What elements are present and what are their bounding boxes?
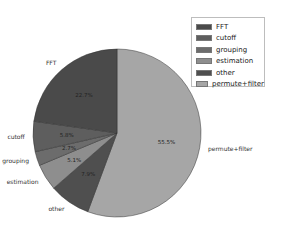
legend-swatch bbox=[196, 58, 212, 64]
legend-label: cutoff bbox=[216, 34, 236, 42]
pie-percent-label: 5.1% bbox=[67, 157, 81, 163]
legend-item-fft: FFT bbox=[196, 21, 264, 33]
legend-label: other bbox=[216, 69, 235, 77]
pie-slices bbox=[33, 49, 201, 217]
pie-percent-label: 7.9% bbox=[81, 171, 95, 177]
pie-percent-label: 2.7% bbox=[62, 145, 76, 151]
legend-swatch bbox=[196, 24, 212, 30]
legend-swatch bbox=[196, 35, 212, 41]
legend-swatch bbox=[196, 70, 212, 76]
legend-label: permute+filter bbox=[212, 80, 264, 88]
legend-item-estimation: estimation bbox=[196, 56, 264, 68]
pie-category-label: grouping bbox=[2, 157, 29, 165]
legend-label: estimation bbox=[216, 57, 253, 65]
legend-item-permute-filter: permute+filter bbox=[196, 79, 264, 91]
pie-percent-label: 55.5% bbox=[158, 139, 175, 145]
legend-label: grouping bbox=[216, 46, 247, 54]
pie-percent-label: 5.8% bbox=[60, 132, 74, 138]
pie-percent-label: 22.7% bbox=[75, 92, 92, 98]
legend-item-cutoff: cutoff bbox=[196, 33, 264, 45]
pie-category-label: estimation bbox=[7, 178, 39, 185]
pie-category-label: cutoff bbox=[7, 133, 25, 140]
legend-swatch bbox=[196, 47, 212, 53]
legend-item-other: other bbox=[196, 67, 264, 79]
pie-category-label: permute+filter bbox=[208, 145, 253, 153]
pie-category-label: other bbox=[48, 205, 65, 212]
pie-category-label: FFT bbox=[46, 59, 57, 66]
legend-label: FFT bbox=[216, 23, 228, 31]
legend-swatch bbox=[196, 81, 208, 87]
legend: FFT cutoff grouping estimation other per… bbox=[191, 17, 265, 87]
legend-item-grouping: grouping bbox=[196, 44, 264, 56]
